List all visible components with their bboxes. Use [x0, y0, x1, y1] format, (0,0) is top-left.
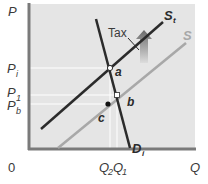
label-c: c [98, 111, 105, 125]
origin-label: 0 [8, 160, 15, 175]
svg-text:1: 1 [122, 167, 127, 177]
tax-incidence-diagram: P Q 0 P i P 1 P b Q 2 Q 1 S t S D i a b … [0, 0, 208, 184]
y-axis-label: P [8, 4, 17, 19]
svg-text:1: 1 [16, 93, 21, 103]
price-label-Pi: P i [7, 61, 19, 79]
svg-text:b: b [16, 106, 21, 116]
svg-text:P: P [7, 61, 16, 76]
point-c [105, 101, 110, 106]
label-a: a [115, 65, 122, 79]
tax-label: Tax [108, 26, 127, 40]
svg-text:S: S [164, 8, 173, 23]
label-b: b [127, 95, 134, 109]
quantity-label-Q1: Q 1 [113, 160, 127, 177]
svg-text:t: t [173, 16, 176, 25]
svg-text:D: D [132, 141, 142, 156]
quantity-label-Q2: Q 2 [99, 160, 113, 177]
svg-text:i: i [16, 69, 19, 79]
x-axis-label: Q [190, 160, 200, 175]
svg-text:P: P [7, 98, 16, 113]
point-b [115, 93, 120, 98]
point-a [107, 65, 112, 70]
label-S: S [183, 28, 192, 43]
